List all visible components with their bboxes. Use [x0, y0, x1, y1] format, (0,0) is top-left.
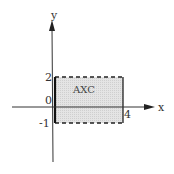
tick-label-y-neg1: -1	[39, 117, 50, 130]
diagram-canvas: y x 2 0 -1 4 AXC	[0, 0, 174, 174]
x-axis-arrow-icon	[144, 104, 155, 110]
region-label: AXC	[72, 84, 95, 95]
tick-label-x-4: 4	[124, 108, 131, 121]
x-axis-label: x	[158, 101, 165, 114]
origin-label: 0	[45, 94, 52, 107]
y-axis	[52, 28, 53, 162]
y-axis-label: y	[50, 9, 58, 22]
tick-label-y-2: 2	[45, 71, 52, 84]
